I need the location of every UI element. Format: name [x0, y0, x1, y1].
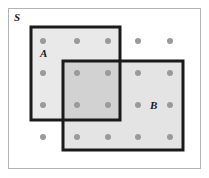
element-dot [167, 38, 173, 44]
element-dot [135, 70, 141, 76]
element-dot [167, 134, 173, 140]
element-dot [135, 102, 141, 108]
intersection-region [63, 61, 120, 120]
element-dot [105, 70, 111, 76]
element-dot [74, 134, 80, 140]
intersection-a-b [63, 61, 120, 120]
set-b-label: B [149, 99, 157, 111]
element-dot [105, 102, 111, 108]
element-dot [105, 134, 111, 140]
element-dot [167, 102, 173, 108]
set-a-label: A [39, 47, 47, 59]
element-dot [167, 70, 173, 76]
element-dot [40, 70, 46, 76]
universe-label-s: S [14, 11, 20, 23]
element-dot [40, 102, 46, 108]
element-dot [135, 38, 141, 44]
diagram-canvas: SAB [0, 0, 209, 178]
element-dot [74, 102, 80, 108]
element-dot [74, 70, 80, 76]
element-dot [105, 38, 111, 44]
element-dot [40, 38, 46, 44]
element-dot [74, 38, 80, 44]
element-dot [40, 134, 46, 140]
set-diagram: SAB [0, 0, 209, 178]
element-dot [135, 134, 141, 140]
